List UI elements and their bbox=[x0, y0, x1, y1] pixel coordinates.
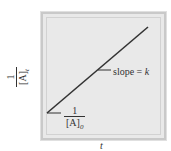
intercept-label: 1 [A]0 bbox=[64, 100, 85, 131]
y-axis-label: 1 [A]t bbox=[4, 62, 34, 92]
slope-label: slope = k bbox=[113, 66, 149, 77]
x-axis-label: t bbox=[100, 140, 103, 151]
